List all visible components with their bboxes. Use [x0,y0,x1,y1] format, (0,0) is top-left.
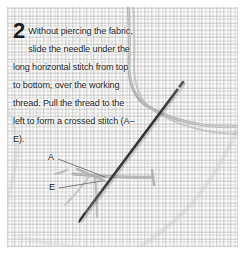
cross-stitch-step-figure: 2 Without piercing the fabric, slide the… [0,0,244,253]
vertical-thread-leg [65,177,97,217]
step-number: 2 [13,21,24,41]
instruction-text: Without piercing the fabric, slide the n… [13,26,134,144]
callout-label-a: A [48,152,54,162]
working-thread [128,7,238,134]
long-horizontal-stitch [55,170,154,185]
instruction-caption: 2 Without piercing the fabric, slide the… [13,20,135,146]
callout-label-e: E [49,182,55,192]
